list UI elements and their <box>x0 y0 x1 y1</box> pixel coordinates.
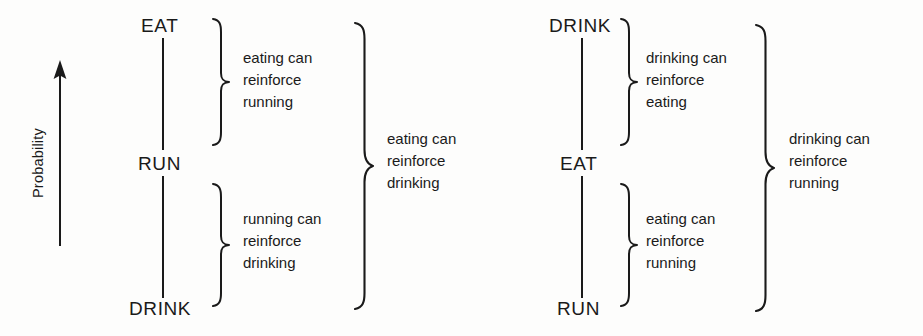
annotation-outer: drinking can reinforce running <box>789 128 870 194</box>
spine-lower-segment <box>581 176 583 298</box>
annotation-line: drinking can <box>789 128 870 150</box>
brace-upper-inner <box>210 18 232 146</box>
annotation-line: reinforce <box>646 69 727 91</box>
annotation-line: reinforce <box>387 150 456 172</box>
annotation-line: drinking can <box>646 47 727 69</box>
annotation-line: running <box>646 252 715 274</box>
annotation-line: running <box>243 91 312 113</box>
brace-upper-inner <box>618 18 640 146</box>
brace-lower-inner <box>618 183 640 307</box>
node-label-top: EAT <box>141 16 178 35</box>
annotation-line: eating <box>646 91 727 113</box>
brace-outer <box>753 24 777 314</box>
right-panel: DRINK EAT RUN drinking can reinforce eat… <box>470 0 923 336</box>
annotation-line: drinking <box>243 252 321 274</box>
annotation-outer: eating can reinforce drinking <box>387 128 456 194</box>
reinforcement-hierarchy-figure: Probability EAT RUN DRINK eating can rei… <box>0 0 923 336</box>
annotation-line: eating can <box>243 47 312 69</box>
node-label-bottom: DRINK <box>129 299 191 318</box>
annotation-line: running can <box>243 208 321 230</box>
node-label-middle: RUN <box>138 154 181 173</box>
annotation-line: reinforce <box>243 69 312 91</box>
annotation-line: drinking <box>387 172 456 194</box>
annotation-lower-inner: running can reinforce drinking <box>243 208 321 274</box>
annotation-lower-inner: eating can reinforce running <box>646 208 715 274</box>
spine-upper-segment <box>162 38 164 150</box>
brace-outer <box>352 22 376 312</box>
node-label-bottom: RUN <box>557 299 600 318</box>
annotation-line: reinforce <box>789 150 870 172</box>
annotation-line: eating can <box>646 208 715 230</box>
annotation-upper-inner: drinking can reinforce eating <box>646 47 727 113</box>
annotation-line: reinforce <box>646 230 715 252</box>
brace-lower-inner <box>210 183 232 307</box>
node-label-top: DRINK <box>549 16 611 35</box>
left-panel: EAT RUN DRINK eating can reinforce runni… <box>0 0 470 336</box>
annotation-line: eating can <box>387 128 456 150</box>
annotation-line: running <box>789 172 870 194</box>
node-label-middle: EAT <box>560 154 597 173</box>
annotation-line: reinforce <box>243 230 321 252</box>
spine-upper-segment <box>581 38 583 150</box>
spine-lower-segment <box>162 176 164 298</box>
annotation-upper-inner: eating can reinforce running <box>243 47 312 113</box>
